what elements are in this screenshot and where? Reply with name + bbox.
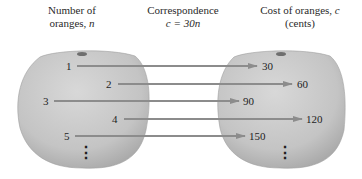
domain-value-3: 3 (43, 95, 49, 107)
range-value-150: 150 (249, 130, 266, 142)
domain-value-2: 2 (106, 78, 112, 90)
range-continuation: ⋮ (277, 145, 293, 161)
range-value-60: 60 (297, 78, 308, 90)
stem-icon (276, 52, 286, 56)
domain-continuation: ⋮ (78, 145, 94, 161)
range-value-90: 90 (243, 95, 254, 107)
domain-value-1: 1 (66, 60, 72, 72)
domain-value-4: 4 (112, 113, 118, 125)
range-value-120: 120 (306, 113, 323, 125)
stem-icon (77, 52, 87, 56)
range-value-30: 30 (262, 60, 273, 72)
domain-value-5: 5 (64, 130, 70, 142)
